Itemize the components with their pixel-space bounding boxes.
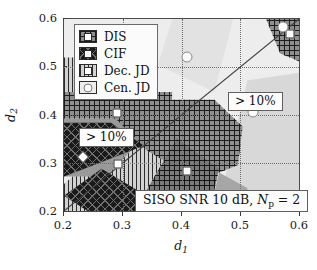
ytick-label-0.5: 0.5 bbox=[39, 59, 57, 73]
legend-label-dis: DIS bbox=[104, 30, 127, 44]
ytick-0.4 bbox=[63, 115, 67, 116]
y-axis-label: d2 bbox=[3, 108, 20, 122]
cif-swatch bbox=[79, 47, 97, 60]
ytick-label-0.3: 0.3 bbox=[39, 156, 57, 170]
legend-item-cif[interactable]: CIF bbox=[79, 45, 150, 62]
annotation-threshold-left: > 10% bbox=[79, 128, 134, 147]
legend-label-dec-jd: Dec. JD bbox=[104, 64, 150, 78]
xtick-0.3 bbox=[122, 212, 123, 216]
y-axis-label-base: d bbox=[3, 114, 18, 122]
xtick-0.2 bbox=[63, 212, 64, 216]
marker-dis-1 bbox=[112, 108, 121, 117]
marker-dis-2 bbox=[183, 167, 192, 176]
caption-symbol: N bbox=[257, 192, 268, 207]
legend-label-cen-jd: Cen. JD bbox=[104, 81, 150, 95]
x-axis-label-subscript: 1 bbox=[182, 245, 188, 255]
caption-suffix: = 2 bbox=[274, 192, 300, 207]
xtick-label-0.5: 0.5 bbox=[231, 218, 249, 232]
x-axis-label: d1 bbox=[174, 238, 188, 255]
xtick-0.6 bbox=[299, 212, 300, 216]
legend-item-dis[interactable]: DIS bbox=[79, 28, 150, 45]
annotation-caption: SISO SNR 10 dB, Np = 2 bbox=[135, 190, 308, 212]
xtick-0.5 bbox=[240, 212, 241, 216]
legend-label-cif: CIF bbox=[104, 47, 126, 61]
ytick-0.6 bbox=[63, 18, 67, 19]
dec-jd-swatch bbox=[79, 64, 97, 77]
chart-legend: DIS CIF Dec. JD Cen. JD bbox=[74, 24, 158, 100]
xtick-label-0.6: 0.6 bbox=[290, 218, 308, 232]
marker-cen-jd-3 bbox=[277, 22, 288, 33]
legend-item-cen-jd[interactable]: Cen. JD bbox=[79, 79, 150, 96]
chart-figure: DIS CIF Dec. JD Cen. JD > 10% > 10% SISO… bbox=[0, 0, 317, 270]
square-marker-icon bbox=[84, 67, 92, 75]
y-axis-label-subscript: 2 bbox=[9, 108, 19, 114]
marker-cen-jd-1 bbox=[182, 51, 193, 62]
gridline-y-0.3 bbox=[64, 163, 299, 164]
annotation-threshold-right: > 10% bbox=[228, 92, 283, 111]
gridline-y-0.4 bbox=[64, 115, 299, 116]
dis-swatch bbox=[79, 30, 97, 43]
ytick-label-0.6: 0.6 bbox=[39, 11, 57, 25]
circle-marker-icon bbox=[84, 83, 93, 92]
ytick-0.3 bbox=[63, 163, 67, 164]
xtick-label-0.2: 0.2 bbox=[54, 218, 72, 232]
marker-dis-3 bbox=[286, 30, 295, 39]
ytick-label-0.2: 0.2 bbox=[39, 204, 57, 218]
ytick-label-0.4: 0.4 bbox=[39, 108, 57, 122]
square-marker-icon bbox=[84, 33, 92, 41]
caption-prefix: SISO SNR 10 dB, bbox=[143, 192, 257, 207]
marker-dec-jd-1 bbox=[114, 160, 123, 169]
cen-jd-swatch bbox=[79, 81, 97, 94]
xtick-label-0.4: 0.4 bbox=[172, 218, 190, 232]
ytick-0.5 bbox=[63, 66, 67, 67]
ytick-0.2 bbox=[63, 211, 67, 212]
xtick-label-0.3: 0.3 bbox=[113, 218, 131, 232]
legend-item-dec-jd[interactable]: Dec. JD bbox=[79, 62, 150, 79]
x-axis-label-base: d bbox=[174, 238, 182, 253]
xtick-0.4 bbox=[181, 212, 182, 216]
diamond-marker-icon bbox=[84, 50, 92, 58]
